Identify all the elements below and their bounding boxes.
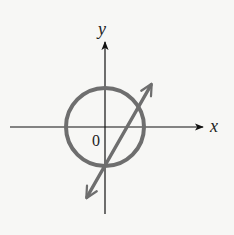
origin-label: 0 [92,133,100,149]
diagram-svg [0,0,234,235]
x-axis-label: x [210,117,218,135]
y-axis-label: y [98,20,106,38]
coordinate-diagram: y x 0 [0,0,234,235]
